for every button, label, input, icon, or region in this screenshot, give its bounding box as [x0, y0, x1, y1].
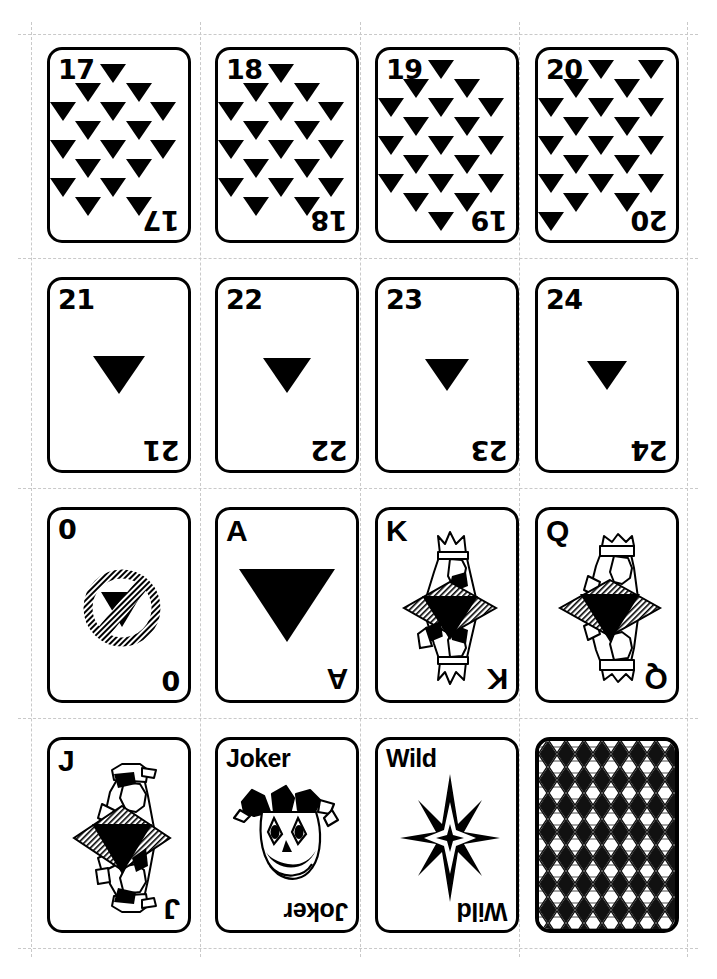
pip-triangle-icon: [614, 193, 640, 212]
king-figure-icon: [378, 510, 519, 703]
cutline-horizontal: [18, 258, 698, 259]
pip-triangle-icon: [614, 79, 640, 98]
cutline-horizontal: [18, 718, 698, 719]
pip-triangle-icon: [478, 174, 504, 193]
pip-triangle-icon: [100, 64, 126, 83]
card-index-bottom-right: 22: [311, 437, 348, 464]
pip-triangle-icon: [538, 136, 564, 155]
pip-field: [538, 50, 676, 240]
pip-triangle-icon: [454, 117, 480, 136]
card-index-bottom-right: 24: [631, 437, 668, 464]
playing-card[interactable]: 18 18: [215, 47, 359, 243]
pip-triangle-icon: [318, 140, 344, 159]
playing-card[interactable]: 23 23: [375, 277, 519, 473]
pip-triangle-icon: [318, 102, 344, 121]
playing-card[interactable]: 17 17: [47, 47, 191, 243]
cutline-vertical: [360, 22, 361, 957]
pip-triangle-icon: [454, 79, 480, 98]
card-sheet: 17 17 18 18: [0, 0, 717, 979]
pip-triangle-icon: [263, 358, 311, 393]
playing-card[interactable]: Joker Joker: [215, 737, 359, 933]
pip-triangle-icon: [93, 356, 145, 394]
pip-triangle-icon: [218, 102, 244, 121]
pip-triangle-icon: [294, 159, 320, 178]
pip-triangle-icon: [150, 102, 176, 121]
cutline-horizontal: [18, 488, 698, 489]
pip-triangle-icon: [318, 178, 344, 197]
pip-field: [218, 50, 356, 240]
cutline-vertical: [519, 22, 520, 957]
playing-card[interactable]: Q Q: [535, 507, 679, 703]
cutline-vertical: [31, 22, 32, 957]
playing-card[interactable]: 21 21: [47, 277, 191, 473]
pip-triangle-icon: [428, 98, 454, 117]
card-index-top-left: 22: [226, 286, 263, 313]
pip-triangle-icon: [218, 178, 244, 197]
eight-point-star-icon: [378, 740, 519, 933]
pip-triangle-icon: [638, 98, 664, 117]
pip-triangle-icon: [614, 155, 640, 174]
pip-triangle-icon: [150, 140, 176, 159]
pip-triangle-icon: [100, 102, 126, 121]
pip-triangle-icon: [268, 178, 294, 197]
pip-triangle-icon: [478, 136, 504, 155]
pip-triangle-icon: [538, 174, 564, 193]
pip-triangle-icon: [50, 178, 76, 197]
pip-triangle-icon: [218, 140, 244, 159]
playing-card[interactable]: Wild Wild: [375, 737, 519, 933]
card-index-top-left: 21: [58, 286, 95, 313]
playing-card[interactable]: 0 0: [47, 507, 191, 703]
queen-figure-icon: [538, 510, 679, 703]
pip-field: [50, 50, 188, 240]
cutline-vertical: [687, 22, 688, 957]
card-index-top-left: 23: [386, 286, 423, 313]
pip-triangle-icon: [403, 79, 429, 98]
playing-card-back[interactable]: [535, 737, 679, 933]
pip-triangle-icon: [614, 117, 640, 136]
pip-triangle-icon: [454, 155, 480, 174]
playing-card[interactable]: 19 19: [375, 47, 519, 243]
cutline-vertical: [200, 22, 201, 957]
pip-triangle-icon: [538, 98, 564, 117]
pip-triangle-icon: [563, 155, 589, 174]
pip-triangle-icon: [126, 83, 152, 102]
pip-triangle-icon: [294, 83, 320, 102]
jack-figure-icon: [50, 740, 191, 933]
pip-triangle-icon: [638, 174, 664, 193]
pip-triangle-icon: [588, 60, 614, 79]
pip-triangle-icon: [239, 569, 335, 642]
pip-triangle-icon: [428, 174, 454, 193]
argyle-lattice-pattern-icon: [539, 741, 679, 933]
pip-triangle-icon: [75, 159, 101, 178]
card-index-bottom-right: 23: [471, 437, 508, 464]
card-index-top-left: 24: [546, 286, 583, 313]
playing-card[interactable]: 20 20: [535, 47, 679, 243]
no-symbol-icon: [50, 510, 191, 703]
playing-card[interactable]: J J: [47, 737, 191, 933]
pip-field: [378, 50, 516, 240]
pip-triangle-icon: [428, 212, 454, 231]
pip-triangle-icon: [428, 60, 454, 79]
pip-triangle-icon: [588, 174, 614, 193]
pip-triangle-icon: [428, 136, 454, 155]
pip-triangle-icon: [588, 98, 614, 117]
playing-card[interactable]: A A: [215, 507, 359, 703]
playing-card[interactable]: 24 24: [535, 277, 679, 473]
pip-triangle-icon: [75, 197, 101, 216]
pip-triangle-icon: [454, 193, 480, 212]
playing-card[interactable]: K K: [375, 507, 519, 703]
pip-triangle-icon: [50, 140, 76, 159]
card-index-top-left: A: [226, 516, 247, 546]
pip-triangle-icon: [243, 83, 269, 102]
playing-card[interactable]: 22 22: [215, 277, 359, 473]
pip-triangle-icon: [638, 136, 664, 155]
pip-triangle-icon: [563, 117, 589, 136]
pip-triangle-icon: [587, 361, 627, 390]
pip-triangle-icon: [638, 60, 664, 79]
pip-triangle-icon: [294, 197, 320, 216]
pip-triangle-icon: [403, 193, 429, 212]
pip-triangle-icon: [294, 121, 320, 140]
pip-triangle-icon: [588, 136, 614, 155]
pip-triangle-icon: [378, 98, 404, 117]
pip-triangle-icon: [243, 159, 269, 178]
